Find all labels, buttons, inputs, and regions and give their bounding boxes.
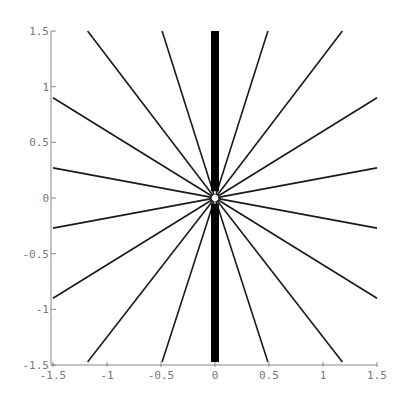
x-tick-label: -1 [100, 369, 113, 382]
y-tick-label: -1.5 [23, 359, 50, 372]
y-tick-label: 0.5 [29, 136, 49, 149]
field-line-ray-232deg [88, 201, 213, 362]
x-tick-label: 1.5 [367, 369, 387, 382]
chart: -1.5-1-0.500.511.5 -1.5-1-0.500.511.5 [0, 0, 407, 398]
y-tick-label: -0.5 [23, 248, 50, 261]
y-tick-label: 0 [42, 192, 49, 205]
field-line-ray-350deg [218, 199, 377, 229]
x-tick-label: 0.5 [259, 369, 279, 382]
vertical-bar-lower [211, 204, 219, 362]
field-line-ray-128deg [88, 31, 213, 195]
field-line-ray-190deg [53, 199, 212, 229]
field-line-ray-329deg [218, 200, 377, 299]
y-tick-label: 1 [42, 81, 49, 94]
y-tick-label: 1.5 [29, 25, 49, 38]
vertical-bar-upper [211, 31, 219, 191]
field-line-ray-52deg [217, 31, 342, 195]
x-tick-label: -0.5 [148, 369, 175, 382]
field-line-ray-211deg [53, 200, 212, 299]
field-line-ray-170deg [53, 168, 212, 198]
x-tick-label: 1 [320, 369, 327, 382]
field-line-ray-10deg [218, 168, 377, 198]
y-tick-label: -1 [36, 303, 49, 316]
x-tick-label: 0 [212, 369, 219, 382]
field-line-ray-308deg [217, 201, 342, 362]
vertical-bar-group [211, 31, 219, 362]
